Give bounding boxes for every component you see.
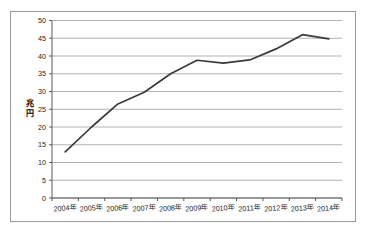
x-tick-label: 2008年 <box>159 203 183 214</box>
y-tick-label: 35 <box>38 69 46 78</box>
y-tick-label: 5 <box>42 176 46 185</box>
y-tick-label: 0 <box>42 194 46 203</box>
y-tick-label: 20 <box>38 123 46 132</box>
y-axis-ticks: 05101520253035404550 <box>38 16 52 203</box>
x-tick-label: 2013年 <box>290 203 314 214</box>
x-tick-label: 2012年 <box>264 203 288 214</box>
y-axis-title-char-1: 兆 <box>26 98 34 108</box>
x-tick-label: 2011年 <box>238 203 261 214</box>
x-tick-label: 2007年 <box>132 203 156 214</box>
x-tick-label: 2014年 <box>317 203 341 214</box>
y-axis-title-char-2: 円 <box>26 109 34 118</box>
y-tick-label: 45 <box>38 34 46 43</box>
y-tick-label: 50 <box>38 16 46 25</box>
y-tick-label: 15 <box>38 140 46 149</box>
y-tick-label: 40 <box>38 52 46 61</box>
y-tick-label: 25 <box>38 105 46 114</box>
x-tick-label: 2005年 <box>79 203 103 214</box>
y-tick-label: 10 <box>38 158 46 167</box>
line-chart: 05101520253035404550 2004年2005年2006年2007… <box>0 0 367 235</box>
x-tick-label: 2004年 <box>53 203 77 214</box>
y-tick-label: 30 <box>38 87 46 96</box>
x-tick-label: 2009年 <box>185 203 209 214</box>
x-tick-label: 2010年 <box>211 203 235 214</box>
plot-area-wrapper: 05101520253035404550 2004年2005年2006年2007… <box>0 0 367 235</box>
chart-figure: 05101520253035404550 2004年2005年2006年2007… <box>0 0 367 235</box>
x-axis-labels: 2004年2005年2006年2007年2008年2009年2010年2011年… <box>53 203 340 214</box>
x-tick-label: 2006年 <box>106 203 130 214</box>
